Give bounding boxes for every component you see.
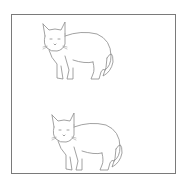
cat-drawing-top [31,18,121,84]
cat-drawing-bottom [40,109,130,175]
picture-frame [11,14,176,174]
